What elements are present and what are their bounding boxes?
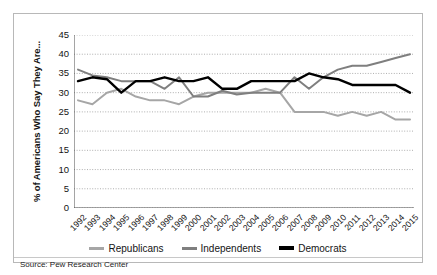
y-axis-tick-label: 20	[47, 126, 69, 136]
plot-area: % of Americans Who Say They Are... 45403…	[74, 35, 414, 208]
source-note: Source: Pew Research Center	[20, 260, 128, 269]
series-line-democrats	[78, 73, 410, 92]
legend-swatch-icon	[182, 247, 197, 250]
y-axis-tick-label: 40	[47, 49, 69, 59]
legend-label: Republicans	[108, 243, 163, 254]
chart-figure: % of Americans Who Say They Are... 45403…	[13, 13, 423, 263]
legend-label: Democrats	[298, 243, 346, 254]
y-axis-tick-label: 25	[47, 107, 69, 117]
legend-item-independents[interactable]: Independents	[182, 243, 262, 254]
legend-swatch-icon	[279, 246, 294, 250]
legend-item-republicans[interactable]: Republicans	[89, 243, 163, 254]
y-axis-tick-label: 10	[47, 165, 69, 175]
y-axis-tick-label: 0	[47, 203, 69, 213]
source-divider	[14, 257, 422, 258]
y-axis-tick-label: 35	[47, 69, 69, 79]
series-line-independents	[78, 54, 410, 96]
y-axis-tick-label: 5	[47, 184, 69, 194]
legend-item-democrats[interactable]: Democrats	[279, 243, 346, 254]
y-axis-tick-label: 15	[47, 146, 69, 156]
legend-swatch-icon	[89, 247, 104, 250]
y-axis-tick-label: 30	[47, 88, 69, 98]
line-chart-svg	[74, 35, 414, 208]
chart-legend: RepublicansIndependentsDemocrats	[14, 241, 422, 255]
legend-label: Independents	[201, 243, 262, 254]
y-axis-tick-label: 45	[47, 30, 69, 40]
y-axis-title: % of Americans Who Say They Are...	[30, 35, 44, 208]
